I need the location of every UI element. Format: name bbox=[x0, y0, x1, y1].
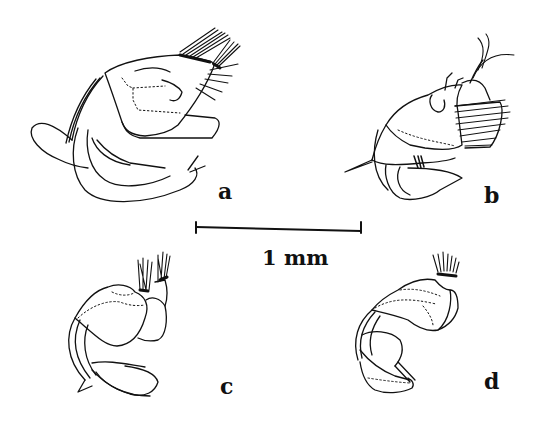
panel-label-c: c bbox=[220, 375, 233, 397]
drawing-b bbox=[345, 34, 514, 199]
scale-bar-label: 1 mm bbox=[262, 247, 328, 268]
panel-label-b: b bbox=[484, 184, 499, 206]
drawing-d bbox=[356, 252, 459, 393]
panel-label-d: d bbox=[484, 370, 499, 392]
drawing-c bbox=[69, 252, 170, 396]
drawing-a bbox=[31, 28, 240, 202]
scale-bar bbox=[196, 222, 361, 233]
panel-label-a: a bbox=[218, 180, 232, 202]
figure: a b c d 1 mm bbox=[0, 0, 538, 424]
